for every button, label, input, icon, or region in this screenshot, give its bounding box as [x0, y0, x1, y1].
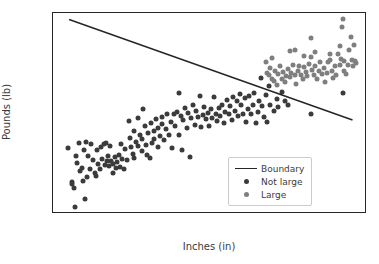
legend-line-icon: [233, 168, 259, 169]
x-axis-label: Inches (in): [183, 241, 236, 252]
legend-dot-icon: [233, 192, 259, 197]
x-tick-label: 72.5: [260, 212, 281, 213]
legend[interactable]: Boundary Not large Large: [228, 157, 312, 206]
legend-label: Boundary: [259, 164, 304, 174]
x-tick-mark: [350, 212, 351, 213]
legend-dot-icon: [233, 179, 259, 184]
x-tick-label: 62.5: [99, 212, 120, 213]
figure: Pounds (lb) Inches (in) 1001201401601802…: [0, 0, 379, 264]
plot-area: 100120140160180200 60.062.565.067.570.07…: [52, 12, 366, 213]
x-tick-mark: [149, 212, 150, 213]
x-tick-mark: [69, 212, 70, 213]
x-tick-label: 75.0: [300, 212, 321, 213]
x-tick-mark: [270, 212, 271, 213]
x-tick-mark: [109, 212, 110, 213]
boundary-line: [69, 19, 352, 120]
legend-item-large[interactable]: Large: [233, 188, 306, 201]
boundary-line-svg: [53, 13, 366, 213]
x-tick-label: 77.5: [340, 212, 361, 213]
x-tick-mark: [230, 212, 231, 213]
legend-label: Not large: [259, 177, 302, 187]
x-tick-mark: [310, 212, 311, 213]
x-tick-mark: [189, 212, 190, 213]
y-axis-label: Pounds (lb): [1, 84, 12, 140]
legend-item-boundary[interactable]: Boundary: [233, 162, 306, 175]
legend-label: Large: [259, 190, 286, 200]
x-tick-label: 70.0: [220, 212, 241, 213]
legend-item-not-large[interactable]: Not large: [233, 175, 306, 188]
x-tick-label: 65.0: [139, 212, 160, 213]
x-tick-label: 67.5: [179, 212, 200, 213]
x-tick-label: 60.0: [59, 212, 80, 213]
